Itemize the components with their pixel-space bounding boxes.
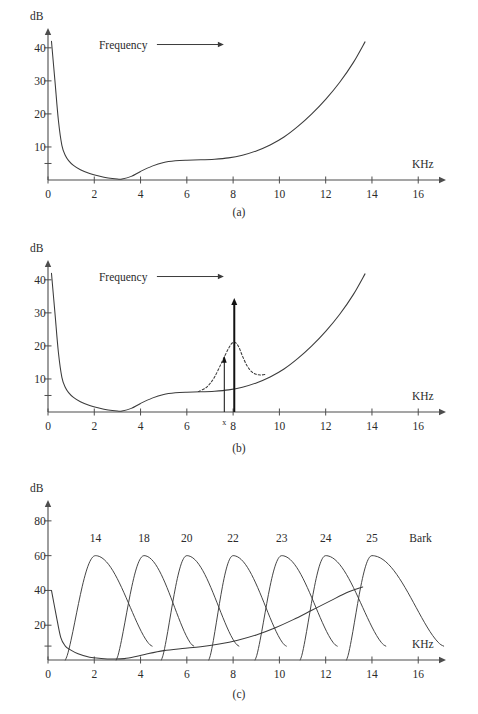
x-tick-label: 8 <box>230 188 236 200</box>
y-tick-label: 80 <box>34 515 46 527</box>
absolute-threshold-of-hearing <box>51 587 362 659</box>
x-tick-label: 16 <box>412 668 424 680</box>
figure-root: 024681012141610203040dBKHzFrequency(a) 0… <box>0 0 478 714</box>
bark-legend-label: Bark <box>409 532 432 544</box>
x-axis-title: KHz <box>412 390 434 402</box>
frequency-annotation-label: Frequency <box>99 39 148 52</box>
y-axis-arrowhead <box>45 28 51 35</box>
y-tick-label: 40 <box>34 584 46 596</box>
bark-band-18 <box>116 556 194 660</box>
y-tick-label: 20 <box>34 340 46 352</box>
masked-tone-arrow-head <box>222 356 227 363</box>
x-tick-label: 6 <box>184 188 190 200</box>
panel-b: 024681012141610203040dBKHzFrequencyx(b) <box>0 230 478 470</box>
x-tick-label: 10 <box>274 668 286 680</box>
x-tick-label: 6 <box>184 420 190 432</box>
x-tick-label: 12 <box>320 668 332 680</box>
bark-label-18: 18 <box>138 532 150 544</box>
y-axis-arrowhead <box>45 500 51 507</box>
y-tick-label: 60 <box>34 550 46 562</box>
x-tick-label: 16 <box>412 188 424 200</box>
frequency-annotation-label: Frequency <box>99 271 148 284</box>
bark-band-22 <box>209 556 287 660</box>
y-tick-label: 40 <box>34 274 46 286</box>
x-tick-label: 4 <box>138 420 144 432</box>
x-tick-label: 12 <box>320 420 332 432</box>
bark-band-14 <box>65 556 152 660</box>
x-axis-arrowhead <box>439 409 446 415</box>
x-tick-label: 0 <box>45 188 51 200</box>
panel-a: 024681012141610203040dBKHzFrequency(a) <box>0 0 478 230</box>
panel-label-panel-b: (b) <box>232 442 246 455</box>
tonal-masker-arrow-head <box>231 298 237 305</box>
frequency-annotation-arrowhead <box>218 42 224 48</box>
x-tick-label: 14 <box>366 420 378 432</box>
y-tick-label: 10 <box>34 373 46 385</box>
panel-b-plot: 024681012141610203040dBKHzFrequencyx(b) <box>0 230 478 470</box>
x-tick-label: 14 <box>366 668 378 680</box>
x-tick-label: 2 <box>91 188 97 200</box>
y-axis-title: dB <box>30 10 44 22</box>
x-tick-label: 2 <box>91 668 97 680</box>
x-tick-label: 12 <box>320 188 332 200</box>
y-axis-title: dB <box>30 482 44 494</box>
bark-band-24 <box>300 556 386 660</box>
x-axis-title: KHz <box>412 638 434 650</box>
absolute-threshold-of-hearing <box>51 41 365 179</box>
panel-c-plot: 024681012141620406080dBKHz14182022232425… <box>0 470 478 714</box>
x-axis-arrowhead <box>439 657 446 663</box>
y-tick-label: 30 <box>34 307 46 319</box>
bark-label-14: 14 <box>90 532 102 544</box>
bark-label-25: 25 <box>366 532 378 544</box>
x-tick-label: 8 <box>230 420 236 432</box>
panel-a-plot: 024681012141610203040dBKHzFrequency(a) <box>0 0 478 230</box>
bark-label-24: 24 <box>320 532 332 544</box>
y-tick-label: 20 <box>34 108 46 120</box>
x-tick-label: 14 <box>366 188 378 200</box>
y-tick-label: 20 <box>34 619 46 631</box>
x-tick-label: 16 <box>412 420 424 432</box>
masked-tone-mark: x <box>222 418 226 427</box>
bark-label-20: 20 <box>181 532 193 544</box>
x-axis-title: KHz <box>412 158 434 170</box>
y-tick-label: 30 <box>34 75 46 87</box>
y-axis-arrowhead <box>45 260 51 267</box>
y-tick-label: 40 <box>34 42 46 54</box>
x-tick-label: 10 <box>274 188 286 200</box>
bark-band-23 <box>255 556 337 660</box>
panel-label-panel-a: (a) <box>233 206 246 219</box>
x-tick-label: 4 <box>138 188 144 200</box>
x-tick-label: 4 <box>138 668 144 680</box>
x-tick-label: 10 <box>274 420 286 432</box>
bark-band-20 <box>161 556 239 660</box>
bark-label-23: 23 <box>276 532 288 544</box>
x-tick-label: 0 <box>45 420 51 432</box>
bark-label-22: 22 <box>227 532 239 544</box>
panel-label-panel-c: (c) <box>233 688 246 701</box>
x-tick-label: 8 <box>230 668 236 680</box>
y-axis-title: dB <box>30 242 44 254</box>
panel-c: 024681012141620406080dBKHz14182022232425… <box>0 470 478 714</box>
x-tick-label: 0 <box>45 668 51 680</box>
y-tick-label: 10 <box>34 141 46 153</box>
absolute-threshold-of-hearing <box>51 273 365 411</box>
x-axis-arrowhead <box>439 177 446 183</box>
frequency-annotation-arrowhead <box>218 274 224 280</box>
x-tick-label: 6 <box>184 668 190 680</box>
masking-threshold <box>198 342 265 391</box>
x-tick-label: 2 <box>91 420 97 432</box>
